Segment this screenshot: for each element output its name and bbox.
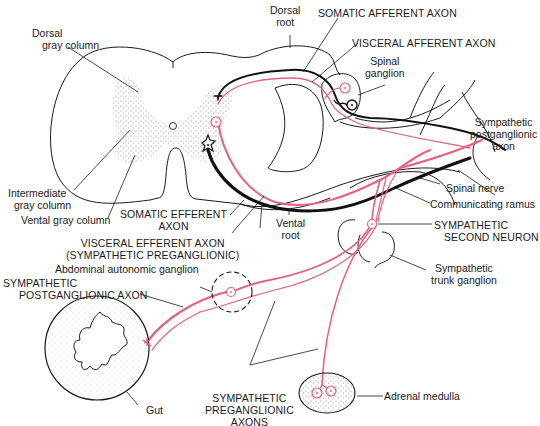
label-line: AXONS xyxy=(205,416,294,426)
label-communicating-ramus: Communicating ramus xyxy=(430,198,535,210)
label-line: Dorsal xyxy=(32,27,99,39)
label-line: SECOND NEURON xyxy=(434,231,539,243)
label-line: trunk ganglion xyxy=(431,274,497,286)
adrenal-medulla xyxy=(299,373,355,413)
label-line: Dorsal xyxy=(270,4,300,16)
label-line: Sympathetic xyxy=(470,116,537,128)
label-line: gray column xyxy=(8,199,71,211)
gut xyxy=(45,296,151,400)
label-vental-root: Vental root xyxy=(276,217,305,241)
label-line: axon xyxy=(470,140,537,152)
sympathetic-pathway-diagram xyxy=(0,0,540,426)
label-line: Intermediate xyxy=(8,187,71,199)
label-abdominal-autonomic-ganglion: Abdominal autonomic ganglion xyxy=(55,263,199,275)
motor-neuron-nucleus xyxy=(207,144,209,146)
label-intermediate-gray-column: Intermediate gray column xyxy=(8,187,71,211)
label-line: SYMPATHETIC xyxy=(434,219,539,231)
label-spinal-nerve: Spinal nerve xyxy=(446,182,504,194)
label-line: gray column xyxy=(32,39,99,51)
label-line: (SYMPATHETIC PREGANGLIONIC) xyxy=(66,249,239,261)
label-line: root xyxy=(270,16,300,28)
label-line: VISCERAL EFFERENT AXON xyxy=(66,237,239,249)
label-dorsal-gray-column: Dorsal gray column xyxy=(32,27,99,51)
label-sympathetic-trunk-ganglion: Sympathetic trunk ganglion xyxy=(431,262,497,286)
label-line: POSTGANGLIONIC AXON xyxy=(3,289,148,301)
label-line: AXON xyxy=(120,220,227,232)
label-line: Spinal xyxy=(365,55,405,67)
label-line: Sympathetic xyxy=(431,262,497,274)
central-canal xyxy=(170,123,177,130)
label-somatic-afferent-axon: SOMATIC AFFERENT AXON xyxy=(318,7,457,19)
label-line: ganglion xyxy=(365,67,405,79)
label-line: Vental xyxy=(276,217,305,229)
label-line: SOMATIC EFFERENT xyxy=(120,208,227,220)
label-visceral-efferent-axon: VISCERAL EFFERENT AXON (SYMPATHETIC PREG… xyxy=(66,237,239,261)
label-line: postganglionic xyxy=(470,128,537,140)
label-vental-gray-column: Vental gray column xyxy=(21,214,110,226)
label-visceral-afferent-axon: VISCERAL AFFERENT AXON xyxy=(352,37,495,49)
label-gut: Gut xyxy=(146,404,163,416)
label-somatic-efferent-axon: SOMATIC EFFERENT AXON xyxy=(120,208,227,232)
label-dorsal-root: Dorsal root xyxy=(270,4,300,28)
label-line: SYMPATHETIC xyxy=(3,277,148,289)
label-sympathetic-postganglionic-axon-right: Sympathetic postganglionic axon xyxy=(470,116,537,152)
label-spinal-ganglion: Spinal ganglion xyxy=(365,55,405,79)
label-line: root xyxy=(276,229,305,241)
label-sympathetic-preganglionic-axons: SYMPATHETIC PREGANGLIONIC AXONS xyxy=(205,392,294,426)
label-adrenal-medulla: Adrenal medulla xyxy=(384,390,460,402)
label-line: SYMPATHETIC xyxy=(205,392,294,404)
label-sympathetic-postganglionic-axon-left: SYMPATHETIC POSTGANGLIONIC AXON xyxy=(3,277,148,301)
label-sympathetic-second-neuron: SYMPATHETIC SECOND NEURON xyxy=(434,219,539,243)
label-line: PREGANGLIONIC xyxy=(205,404,294,416)
